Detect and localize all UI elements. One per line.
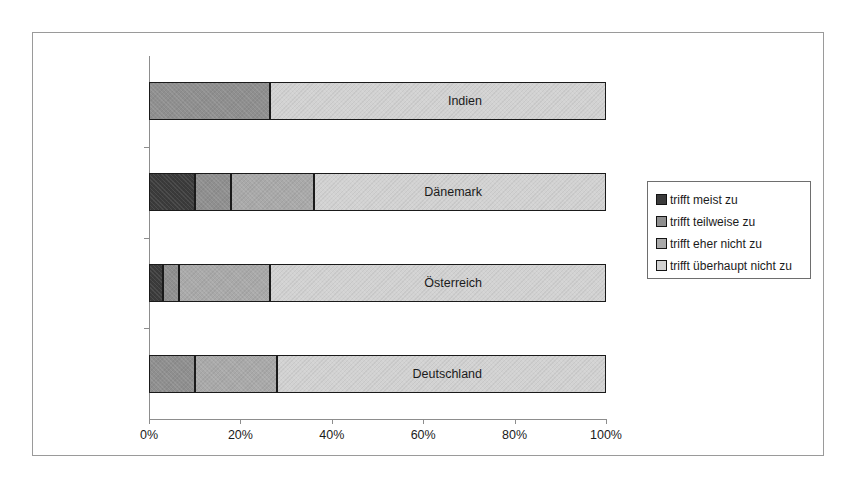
category-label: Indien	[448, 94, 482, 108]
legend-item-label: trifft eher nicht zu	[670, 237, 762, 251]
bar-segment[interactable]	[195, 173, 232, 211]
x-axis-tick-label: 100%	[590, 428, 622, 442]
bar-row	[149, 264, 606, 302]
legend-item[interactable]: trifft überhaupt nicht zu	[656, 255, 802, 276]
x-axis-tick-label: 40%	[319, 428, 344, 442]
y-axis-tick	[144, 328, 149, 329]
x-axis-tick	[240, 419, 241, 424]
chart-legend: trifft meist zutrifft teilweise zutrifft…	[647, 181, 811, 279]
legend-swatch-icon	[656, 194, 667, 205]
x-axis-tick	[332, 419, 333, 424]
legend-item[interactable]: trifft teilweise zu	[656, 211, 802, 232]
chart-frame: 0%20%40%60%80%100% IndienDänemarkÖsterre…	[32, 32, 824, 456]
y-axis-tick	[144, 238, 149, 239]
legend-swatch-icon	[656, 260, 667, 271]
bar-segment[interactable]	[195, 355, 277, 393]
legend-swatch-icon	[656, 216, 667, 227]
category-label: Österreich	[424, 276, 482, 290]
bar-segment[interactable]	[270, 82, 606, 120]
x-axis-tick-label: 60%	[411, 428, 436, 442]
bar-segment[interactable]	[149, 355, 195, 393]
category-label: Dänemark	[424, 185, 482, 199]
bar-row	[149, 355, 606, 393]
bar-segment[interactable]	[231, 173, 313, 211]
bar-segment[interactable]	[163, 264, 179, 302]
x-axis-tick-label: 80%	[502, 428, 527, 442]
x-axis-tick	[149, 419, 150, 424]
x-axis-line	[149, 419, 606, 420]
bar-row	[149, 82, 606, 120]
legend-item-label: trifft teilweise zu	[670, 215, 755, 229]
y-axis-tick	[144, 147, 149, 148]
x-axis-tick	[515, 419, 516, 424]
x-axis-tick	[423, 419, 424, 424]
bar-row	[149, 173, 606, 211]
x-axis-tick	[606, 419, 607, 424]
legend-item[interactable]: trifft meist zu	[656, 189, 802, 210]
bar-segment[interactable]	[149, 264, 163, 302]
bar-segment[interactable]	[179, 264, 270, 302]
legend-item-label: trifft meist zu	[670, 193, 738, 207]
plot-area: 0%20%40%60%80%100% IndienDänemarkÖsterre…	[149, 56, 606, 419]
legend-item[interactable]: trifft eher nicht zu	[656, 233, 802, 254]
x-axis-tick-label: 20%	[228, 428, 253, 442]
legend-item-label: trifft überhaupt nicht zu	[670, 259, 792, 273]
bar-segment[interactable]	[149, 82, 270, 120]
category-label: Deutschland	[413, 367, 483, 381]
legend-swatch-icon	[656, 238, 667, 249]
x-axis-tick-label: 0%	[140, 428, 158, 442]
bar-segment[interactable]	[149, 173, 195, 211]
